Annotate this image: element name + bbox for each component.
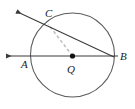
label-point-B: B [120, 50, 127, 62]
geometry-figure: C A B Q [0, 0, 135, 109]
label-point-A: A [20, 58, 28, 70]
center-point-dot [70, 53, 75, 58]
label-point-C: C [45, 7, 53, 19]
segment-QC-dashed [49, 25, 73, 57]
label-center-Q: Q [67, 63, 75, 75]
geometry-canvas: C A B Q [0, 0, 135, 109]
